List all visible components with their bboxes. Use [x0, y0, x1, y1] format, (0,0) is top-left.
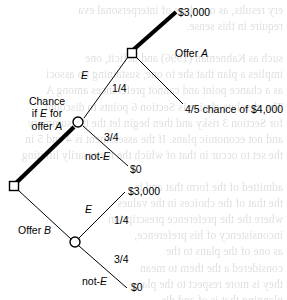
branch-chance-a-to-decision-b-bold	[16, 127, 74, 183]
offer-a-letter: A	[201, 47, 208, 59]
label-chance-if-e-for-offer-a: Chance if E for offer A	[21, 95, 73, 132]
chance-node-offer-a	[73, 117, 83, 127]
label-payoff-3000-top: $3,000	[178, 6, 210, 18]
label-payoff-zero-top: $0	[130, 163, 142, 175]
chance-node-offer-b	[70, 237, 80, 247]
label-prob-three-quarters-top: 3/4	[104, 131, 119, 143]
decision-tree-figure: ery results, as one does of interpersona…	[0, 0, 287, 300]
label-prob-quarter-bottom: 1/4	[114, 214, 129, 226]
label-payoff-3000-bottom: $3,000	[128, 185, 160, 197]
label-offer-b: Offer B	[18, 224, 51, 236]
label-event-e-top: E	[81, 69, 88, 81]
decision-tree-graph	[0, 0, 287, 300]
offer-b-letter: B	[44, 224, 51, 236]
decision-node-offer-a	[128, 49, 137, 58]
label-offer-a: Offer A	[175, 47, 208, 59]
label-event-e-bottom: E	[85, 203, 92, 215]
label-payoff-zero-bottom: $0	[131, 281, 143, 293]
label-not-e-top: not-E	[85, 150, 110, 162]
label-not-e-bottom: not-E	[82, 275, 107, 287]
offer-a-letter-chance: A	[55, 120, 62, 132]
event-e-letter-not-bottom: E	[100, 275, 107, 287]
label-prob-quarter-top: 1/4	[112, 82, 127, 94]
label-four-fifths-chance-4000: 4/5 chance of $4,000	[185, 103, 283, 115]
label-prob-three-quarters-bottom: 3/4	[114, 253, 129, 265]
event-e-letter-not-top: E	[103, 150, 110, 162]
decision-node-offer-b	[10, 182, 19, 191]
event-e-letter-chance: E	[40, 107, 47, 119]
branch-root-to-3000-bold	[133, 12, 176, 50]
branch-root-to-4000	[137, 58, 183, 104]
